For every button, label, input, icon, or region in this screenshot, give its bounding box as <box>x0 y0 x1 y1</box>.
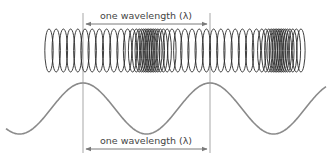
wavelength-diagram: one wavelength (λ) one wavelength (λ) <box>0 0 333 163</box>
bottom-wavelength-label: one wavelength (λ) <box>100 135 192 146</box>
spring-coil <box>45 29 305 72</box>
sine-wave <box>6 83 326 134</box>
top-wavelength-label: one wavelength (λ) <box>100 10 192 21</box>
